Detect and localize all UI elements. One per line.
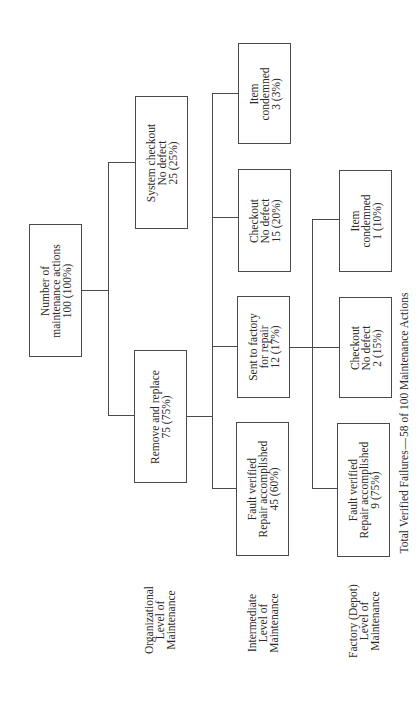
root-line-3: 100 (100%) <box>61 244 72 338</box>
connector-to-checkout-int <box>212 217 238 218</box>
box-checkout-factory: Checkout No defect 2 (15%) <box>339 297 392 398</box>
box-system-checkout: System checkout No defect 25 (25%) <box>135 96 188 229</box>
box-fault-verified-factory: Fault verified Repair accomplished 9 (75… <box>337 423 390 557</box>
fault-verified-fac-line-2: Repair accomplished <box>358 442 369 539</box>
box-sent-to-factory: Sent to factory for repair 12 (17%) <box>237 296 290 398</box>
system-checkout-line-3: 25 (25%) <box>167 123 178 201</box>
connector-sent-factory-out <box>289 347 339 348</box>
connector-org-vertical <box>108 162 109 416</box>
system-checkout-line-1: System checkout <box>145 123 156 201</box>
system-checkout-line-2: No defect <box>156 123 167 201</box>
connector-to-sent-factory <box>212 346 238 347</box>
connector-to-system-checkout <box>108 162 135 163</box>
root-line-1: Number of <box>39 244 50 338</box>
root-box-maintenance-actions: Number of maintenance actions 100 (100%) <box>29 224 82 357</box>
fault-verified-int-line-3: 45 (60%) <box>268 441 279 538</box>
fault-verified-int-line-2: Repair accomplished <box>257 441 268 538</box>
checkout-fac-line-1: Checkout <box>349 325 360 370</box>
item-condemned-fac-line-3: 1 (10%) <box>371 194 382 247</box>
remove-replace-line-1: Remove and replace <box>150 370 161 464</box>
item-condemned-int-line-1: Item <box>248 67 259 120</box>
connector-to-item-condemned-fac <box>312 219 339 220</box>
sent-factory-line-2: for repair <box>258 313 269 381</box>
item-condemned-fac-line-1: Item <box>349 194 360 247</box>
fault-verified-int-line-1: Fault verified <box>246 441 257 538</box>
box-fault-verified-intermediate: Fault verified Repair accomplished 45 (6… <box>236 422 289 556</box>
box-remove-replace: Remove and replace 75 (75%) <box>134 350 187 483</box>
int-label-line-3: Maintenance <box>269 593 280 652</box>
checkout-fac-line-3: 2 (15%) <box>371 325 382 370</box>
connector-to-item-condemned-int <box>212 93 238 94</box>
maintenance-tree-diagram: Number of maintenance actions 100 (100%)… <box>0 0 418 710</box>
item-condemned-int-line-3: 3 (3%) <box>270 67 281 120</box>
connector-root <box>81 290 109 291</box>
sent-factory-line-1: Sent to factory <box>247 313 258 381</box>
connector-factory-vertical <box>312 219 313 489</box>
box-item-condemned-factory: Item condemned 1 (10%) <box>339 170 392 272</box>
item-condemned-int-line-2: condemned <box>259 67 270 120</box>
connector-to-fault-verified-int <box>212 488 237 489</box>
checkout-int-line-2: No defect <box>259 198 270 243</box>
remove-replace-line-2: 75 (75%) <box>161 370 172 464</box>
checkout-fac-line-2: No defect <box>360 325 371 370</box>
fault-verified-fac-line-1: Fault verified <box>347 442 358 539</box>
connector-to-fault-verified-fac <box>312 488 338 489</box>
connector-remove-replace-out <box>186 416 213 417</box>
box-checkout-intermediate: Checkout No defect 15 (20%) <box>238 169 291 272</box>
sent-factory-line-3: 12 (17%) <box>269 313 280 381</box>
connector-to-remove-replace <box>108 415 135 416</box>
fault-verified-fac-line-3: 9 (75%) <box>369 442 380 539</box>
fac-label-line-3: Maintenance <box>370 584 381 658</box>
footer-text: Total Verified Failures — 58 of 100 Main… <box>399 293 410 554</box>
checkout-int-line-3: 15 (20%) <box>270 198 281 243</box>
org-label-line-3: Maintenance <box>166 586 177 654</box>
connector-intermediate-vertical <box>212 93 213 489</box>
item-condemned-fac-line-2: condemned <box>360 194 371 247</box>
checkout-int-line-1: Checkout <box>248 198 259 243</box>
root-line-2: maintenance actions <box>50 244 61 338</box>
box-item-condemned-intermediate: Item condemned 3 (3%) <box>238 43 291 144</box>
